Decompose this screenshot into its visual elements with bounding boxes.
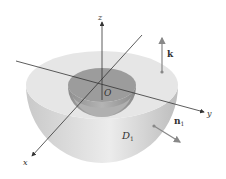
y-axis-label: y — [207, 110, 212, 118]
region-subscript: 1 — [130, 135, 134, 142]
n1-vector-label: n1 — [174, 117, 184, 127]
k-vector-label: k — [167, 50, 173, 59]
diagram-canvas — [0, 0, 226, 179]
region-label: D1 — [122, 131, 134, 142]
origin-label: O — [104, 89, 111, 98]
region-letter: D — [122, 130, 130, 141]
x-axis-label: x — [23, 159, 28, 167]
z-axis-label: z — [98, 14, 102, 22]
n-subscript: 1 — [181, 120, 185, 127]
